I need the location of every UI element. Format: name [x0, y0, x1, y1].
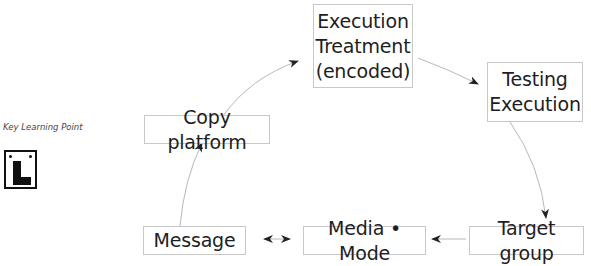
learner-l-plate-icon: [4, 150, 37, 189]
node-label: Media • Mode: [304, 216, 425, 266]
node-testing-execution: Testing Execution: [487, 62, 583, 122]
node-label: Target group: [470, 216, 583, 266]
node-target-group: Target group: [469, 226, 584, 255]
plate-dot-icon: [9, 155, 12, 158]
plate-dot-icon: [29, 155, 32, 158]
edge-message-to-copy: [180, 143, 202, 226]
key-learning-point-label: Key Learning Point: [3, 122, 83, 132]
edge-execution-to-testing: [418, 58, 478, 84]
node-copy-platform: Copy platform: [144, 115, 270, 144]
node-label: Copy platform: [145, 105, 269, 155]
node-line: (encoded): [316, 59, 411, 84]
node-line: Testing: [502, 67, 567, 92]
node-message: Message: [143, 226, 246, 255]
node-execution-treatment: Execution Treatment (encoded): [313, 4, 413, 88]
letter-l-icon: [12, 161, 32, 185]
edge-testing-to-target: [510, 122, 546, 218]
node-label: Message: [154, 228, 236, 253]
node-media-mode: Media • Mode: [303, 226, 426, 255]
node-line: Treatment: [316, 34, 411, 59]
node-line: Execution: [317, 9, 408, 34]
node-line: Execution: [489, 92, 580, 117]
